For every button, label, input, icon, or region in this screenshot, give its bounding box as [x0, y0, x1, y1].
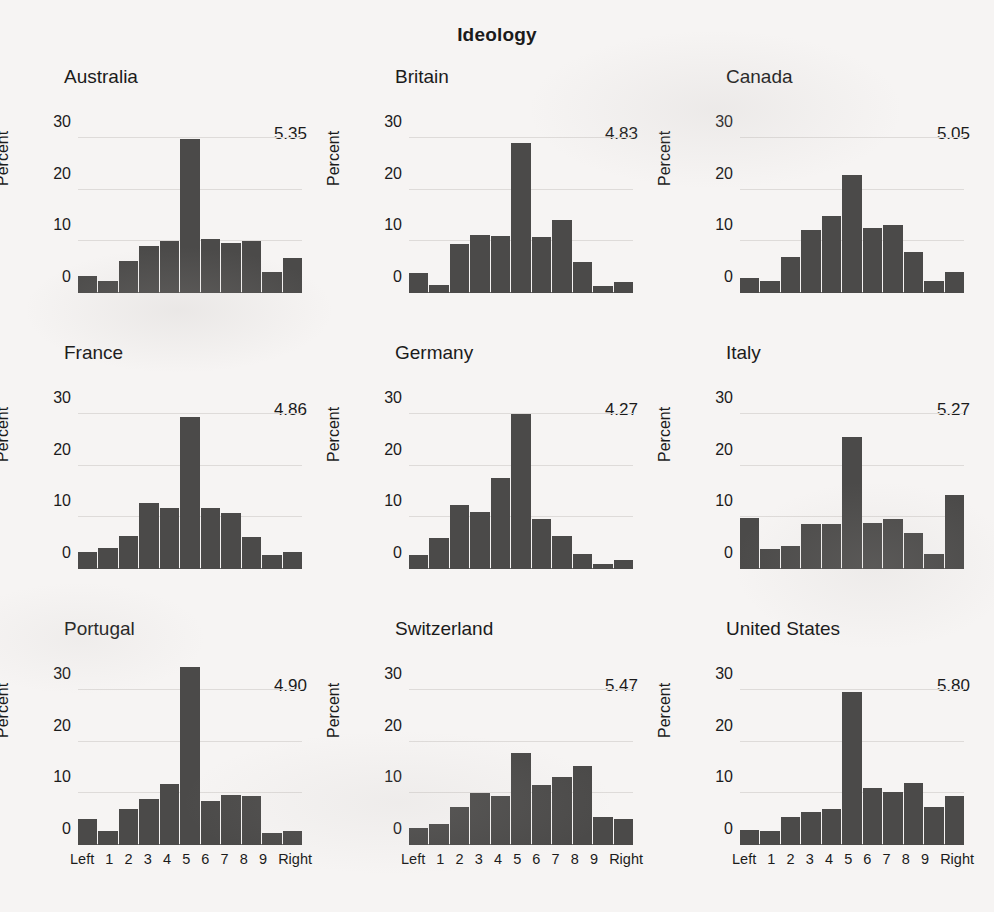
bar-series — [409, 383, 633, 569]
plot-area: 0102030 — [78, 659, 302, 845]
bar — [781, 546, 800, 569]
y-tick-label: 20 — [715, 166, 733, 182]
bar — [511, 143, 530, 293]
bar — [945, 796, 964, 845]
bar — [119, 809, 138, 845]
bar — [511, 414, 530, 569]
panel-germany: Germany4.27Percent0102030 — [331, 334, 662, 610]
page-title: Ideology — [0, 24, 994, 46]
bar — [221, 513, 240, 569]
panel-title: Britain — [395, 66, 449, 88]
bar — [552, 536, 571, 569]
bar-series — [409, 659, 633, 845]
bar — [573, 262, 592, 293]
plot-area: 0102030 — [740, 383, 964, 569]
x-tick-label: Right — [609, 851, 643, 867]
bar — [139, 246, 158, 293]
bar — [904, 783, 923, 845]
bar — [470, 793, 489, 845]
bar — [552, 777, 571, 845]
plot-area: 0102030 — [409, 383, 633, 569]
bar — [863, 788, 882, 845]
y-tick-label: 10 — [715, 217, 733, 233]
bar — [842, 437, 861, 569]
y-tick-label: 0 — [62, 545, 71, 561]
panel-united-states: United States5.80Percent0102030Left12345… — [662, 610, 994, 912]
bar — [242, 537, 261, 569]
y-axis-label: Percent — [0, 131, 12, 186]
y-tick-label: 0 — [724, 545, 733, 561]
x-tick-label: 5 — [513, 851, 521, 867]
x-tick-label: 5 — [182, 851, 190, 867]
x-tick-label: Left — [70, 851, 94, 867]
bar — [470, 235, 489, 293]
x-tick-label: 5 — [844, 851, 852, 867]
bar — [760, 549, 779, 569]
bar — [511, 753, 530, 845]
y-tick-label: 10 — [53, 769, 71, 785]
bar — [491, 236, 510, 293]
bar — [593, 564, 612, 569]
y-axis-label: Percent — [325, 407, 343, 462]
y-tick-label: 20 — [53, 166, 71, 182]
bar — [450, 807, 469, 845]
bar-series — [740, 107, 964, 293]
bar — [242, 796, 261, 845]
y-axis-label: Percent — [325, 131, 343, 186]
bar — [180, 667, 199, 845]
bar — [180, 139, 199, 293]
x-tick-label: 3 — [806, 851, 814, 867]
bar — [283, 831, 302, 845]
bar — [945, 495, 964, 569]
x-tick-label: 2 — [456, 851, 464, 867]
bar — [221, 243, 240, 293]
x-tick-label: Right — [278, 851, 312, 867]
y-tick-label: 0 — [62, 821, 71, 837]
bar — [801, 524, 820, 569]
x-tick-label: 1 — [105, 851, 113, 867]
y-tick-label: 30 — [715, 666, 733, 682]
panel-australia: Australia5.35Percent0102030 — [0, 58, 331, 334]
bar — [78, 552, 97, 569]
y-tick-label: 10 — [715, 493, 733, 509]
bar-series — [78, 383, 302, 569]
panel-switzerland: Switzerland5.47Percent0102030Left1234567… — [331, 610, 662, 912]
bar — [573, 554, 592, 570]
plot-area: 0102030 — [409, 659, 633, 845]
y-tick-label: 20 — [53, 718, 71, 734]
y-tick-label: 30 — [53, 390, 71, 406]
bar — [201, 508, 220, 569]
y-tick-label: 20 — [384, 442, 402, 458]
y-tick-label: 0 — [393, 821, 402, 837]
y-axis-label: Percent — [656, 131, 674, 186]
x-tick-label: 8 — [240, 851, 248, 867]
y-tick-label: 0 — [62, 269, 71, 285]
bar — [98, 548, 117, 569]
bar — [532, 237, 551, 293]
bar — [740, 830, 759, 845]
bar — [904, 252, 923, 293]
y-tick-label: 30 — [384, 114, 402, 130]
bar — [491, 796, 510, 845]
bar — [98, 831, 117, 845]
bar — [409, 555, 428, 569]
y-tick-label: 10 — [384, 217, 402, 233]
bar — [201, 239, 220, 293]
bar-series — [740, 383, 964, 569]
panel-title: Germany — [395, 342, 473, 364]
panel-title: Switzerland — [395, 618, 493, 640]
bar — [262, 833, 281, 845]
y-tick-label: 30 — [53, 114, 71, 130]
x-tick-label: 2 — [787, 851, 795, 867]
y-tick-label: 30 — [715, 114, 733, 130]
panel-title: Canada — [726, 66, 793, 88]
bar — [139, 799, 158, 846]
bar — [78, 819, 97, 845]
x-axis-tick-labels: Left123456789Right — [409, 851, 633, 867]
x-tick-label: Left — [732, 851, 756, 867]
bar — [450, 244, 469, 293]
bar-series — [409, 107, 633, 293]
panel-portugal: Portugal4.90Percent0102030Left123456789R… — [0, 610, 331, 912]
bar — [863, 523, 882, 570]
x-tick-label: 1 — [767, 851, 775, 867]
